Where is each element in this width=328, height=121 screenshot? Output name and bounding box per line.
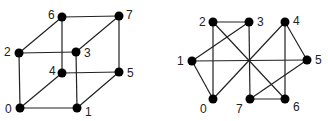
cube-graph-edge-4-5 [62, 72, 119, 73]
labels-layer: 0123456701234567 [4, 8, 322, 119]
cube-graph-edge-1-5 [77, 72, 119, 108]
cube-graph-label-4: 4 [49, 64, 56, 78]
isomorphic-graph-node-2 [209, 18, 218, 27]
cube-graph-label-5: 5 [127, 66, 134, 80]
cube-graph-node-2 [15, 49, 24, 58]
cube-graph-edge-1-3 [76, 52, 77, 108]
cube-graph-edge-6-7 [62, 16, 119, 17]
isomorphic-graph-edge-1-0 [192, 61, 213, 99]
isomorphic-graph-label-0: 0 [200, 102, 207, 116]
cube-graph-node-5 [115, 68, 124, 77]
isomorphic-graph-node-6 [281, 95, 290, 104]
cube-graph-label-1: 1 [85, 105, 92, 119]
edges-layer [19, 16, 307, 108]
cube-graph-label-2: 2 [4, 45, 11, 59]
isomorphic-graph-node-4 [281, 18, 290, 27]
cube-graph-label-0: 0 [5, 102, 12, 116]
nodes-layer [15, 12, 312, 113]
cube-graph-label-7: 7 [126, 8, 133, 22]
cube-graph-edge-0-2 [19, 53, 20, 108]
isomorphic-graph-node-3 [245, 18, 254, 27]
cube-graph-label-3: 3 [84, 46, 91, 60]
isomorphic-graph-label-4: 4 [293, 14, 300, 28]
isomorphic-graph-node-7 [246, 95, 255, 104]
isomorphic-graph-node-5 [303, 56, 312, 65]
cube-graph-node-6 [58, 13, 67, 22]
graph-canvas: 0123456701234567 [0, 0, 328, 121]
isomorphic-graph-label-5: 5 [315, 53, 322, 67]
cube-graph-edge-2-3 [19, 52, 76, 53]
graph-diagram: 0123456701234567 [0, 0, 328, 121]
cube-graph-node-0 [16, 104, 25, 113]
isomorphic-graph-node-1 [188, 57, 197, 66]
isomorphic-graph-label-1: 1 [177, 54, 184, 68]
cube-graph-label-6: 6 [48, 8, 55, 22]
cube-graph-node-1 [73, 104, 82, 113]
isomorphic-graph-label-3: 3 [257, 15, 264, 29]
cube-graph-node-3 [72, 48, 81, 57]
isomorphic-graph-label-2: 2 [199, 15, 206, 29]
cube-graph-edge-0-4 [20, 73, 62, 108]
isomorphic-graph-edge-5-7 [250, 60, 307, 99]
isomorphic-graph-node-0 [209, 95, 218, 104]
cube-graph-edge-3-7 [76, 16, 119, 52]
isomorphic-graph-label-7: 7 [236, 102, 243, 116]
cube-graph-node-4 [58, 69, 67, 78]
isomorphic-graph-label-6: 6 [293, 100, 300, 114]
cube-graph-edge-2-6 [19, 17, 62, 53]
cube-graph-node-7 [115, 12, 124, 21]
